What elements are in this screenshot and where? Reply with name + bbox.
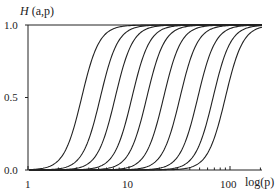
x-tick-label-1: 1: [25, 179, 31, 190]
curve-8: [29, 25, 262, 170]
y-axis-title-h: H: [20, 4, 29, 18]
y-axis-title: H (a,p): [20, 6, 54, 17]
y-tick-label-05: 0.5: [4, 92, 18, 103]
curve-3: [29, 25, 262, 170]
axes: [25, 25, 262, 170]
curve-2: [29, 25, 262, 170]
curve-4: [29, 25, 262, 170]
curves: [29, 25, 262, 170]
curve-5: [29, 25, 262, 170]
y-tick-label-1: 1.0: [4, 20, 18, 31]
y-tick-label-0: 0.0: [4, 165, 18, 176]
x-tick-label-100: 100: [220, 179, 237, 190]
curve-1: [29, 25, 262, 170]
curve-7: [29, 25, 262, 170]
curve-6: [29, 25, 262, 170]
curve-9: [29, 26, 262, 170]
x-tick-label-10: 10: [122, 179, 133, 190]
chart-plot: [0, 0, 280, 195]
x-axis-title: log(p): [245, 177, 274, 188]
y-axis-title-args: (a,p): [32, 4, 54, 18]
